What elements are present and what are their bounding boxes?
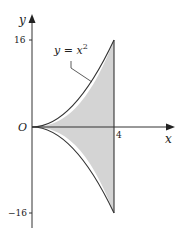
y-axis-arrow-icon	[29, 14, 36, 23]
curve-label: y = x2	[53, 42, 88, 57]
curve-label-exponent: 2	[83, 42, 88, 51]
y-axis-label: y	[18, 13, 26, 27]
region-diagram: y x O 4 16 −16 y = x2	[0, 0, 180, 239]
origin-label: O	[18, 121, 27, 134]
curve-label-text: y = x	[53, 44, 83, 57]
y-tick-label-neg16: −16	[8, 208, 27, 218]
x-axis-arrow-icon	[166, 124, 175, 131]
x-axis-label: x	[165, 132, 172, 146]
x-tick-label-4: 4	[116, 130, 122, 140]
curve-label-leader	[71, 61, 92, 82]
y-tick-label-16: 16	[14, 35, 26, 45]
